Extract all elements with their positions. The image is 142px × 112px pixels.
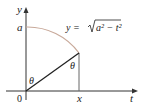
quarter-circle-diagram: y a 0 x t θ θ y = a² − t² bbox=[0, 0, 142, 112]
equation-prefix: y = bbox=[65, 22, 80, 33]
radius-segment bbox=[26, 53, 79, 91]
y-axis-arrow-icon bbox=[24, 7, 29, 13]
t-axis-label: t bbox=[130, 92, 134, 104]
equation-radicand: a² − t² bbox=[96, 22, 123, 33]
a-label: a bbox=[17, 21, 23, 33]
curve-equation: y = a² − t² bbox=[65, 20, 123, 33]
origin-label: 0 bbox=[17, 93, 22, 104]
theta-point-label: θ bbox=[70, 60, 75, 71]
x-point-label: x bbox=[76, 92, 82, 104]
y-axis-label: y bbox=[16, 3, 22, 15]
theta-origin-label: θ bbox=[29, 75, 34, 86]
